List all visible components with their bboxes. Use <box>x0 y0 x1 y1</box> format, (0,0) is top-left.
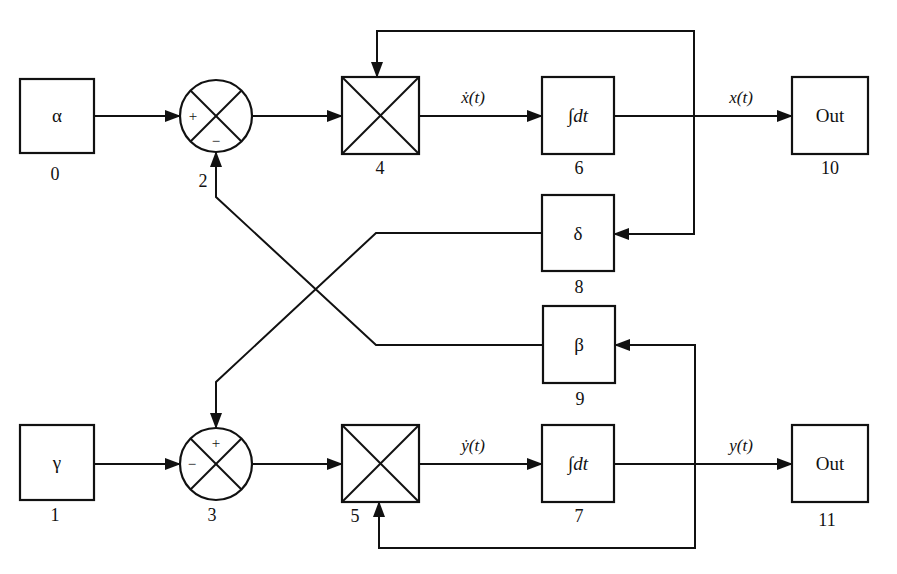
block-4-number: 4 <box>376 158 385 178</box>
signal-label-ydot: ẏ(t) <box>459 436 485 455</box>
integrator-block-6[interactable]: ∫dt 6 <box>542 77 614 178</box>
block-8-number: 8 <box>575 277 584 297</box>
integrator-block-7[interactable]: ∫dt 7 <box>542 425 614 526</box>
sum-3-plus-sign: + <box>212 435 220 451</box>
multiplier-block-4[interactable]: 4 <box>342 77 419 178</box>
sum-2-minus-sign: − <box>212 133 220 149</box>
integrator-7-label: ∫dt <box>567 453 589 476</box>
arrow-y-feedback-to-9 <box>615 345 695 464</box>
block-10-number: 10 <box>821 158 839 178</box>
block-7-number: 7 <box>575 506 584 526</box>
block-11-number: 11 <box>818 510 835 530</box>
block-6-number: 6 <box>575 158 584 178</box>
block-1-label: γ <box>52 452 61 473</box>
gain-block-8-delta[interactable]: δ 8 <box>542 195 614 297</box>
arrow-9-to-2 <box>216 152 543 345</box>
block-0-number: 0 <box>51 164 60 184</box>
signal-label-xdot: ẋ(t) <box>460 88 485 107</box>
signal-label-x: x(t) <box>728 88 753 107</box>
sum-3-minus-sign: − <box>188 456 196 472</box>
arrow-y-feedback-to-5 <box>379 464 695 548</box>
summing-junction-3[interactable]: + − 3 <box>180 428 252 525</box>
block-0-label: α <box>52 105 62 126</box>
output-block-10[interactable]: Out 10 <box>792 77 868 178</box>
sum-2-plus-sign: + <box>189 108 197 124</box>
block-diagram-canvas: α 0 + − 2 4 ẋ(t) ∫dt 6 x(t) Out 10 δ 8 β… <box>0 0 897 574</box>
block-3-number: 3 <box>208 505 217 525</box>
integrator-6-label: ∫dt <box>567 105 589 128</box>
block-0-alpha[interactable]: α 0 <box>20 79 94 184</box>
output-block-11[interactable]: Out 11 <box>792 425 868 530</box>
gain-8-label: δ <box>574 223 583 244</box>
arrow-x-feedback-to-8 <box>614 116 694 234</box>
output-10-label: Out <box>816 105 845 126</box>
signal-label-y: y(t) <box>727 436 753 455</box>
multiplier-block-5[interactable]: 5 <box>342 425 419 526</box>
block-1-gamma[interactable]: γ 1 <box>20 425 94 525</box>
gain-9-label: β <box>574 334 584 355</box>
arrow-8-to-3 <box>216 233 542 428</box>
connectors-cross <box>216 152 543 428</box>
block-2-number: 2 <box>199 171 208 191</box>
output-11-label: Out <box>816 453 845 474</box>
block-5-number: 5 <box>351 506 360 526</box>
block-1-number: 1 <box>51 505 60 525</box>
arrow-x-feedback-to-4 <box>377 31 694 116</box>
block-9-number: 9 <box>576 389 585 409</box>
gain-block-9-beta[interactable]: β 9 <box>543 306 615 409</box>
